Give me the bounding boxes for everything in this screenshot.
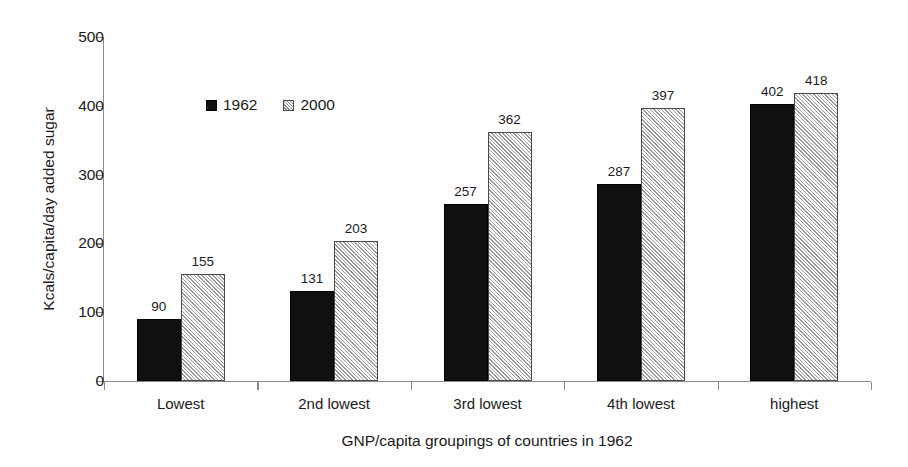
bar-value-label: 131 (282, 271, 342, 286)
bar-value-label: 397 (633, 88, 693, 103)
legend-item-1962: 1962 (206, 96, 257, 114)
x-category-label: Lowest (104, 395, 257, 412)
x-tick-mark (411, 382, 412, 390)
x-category-label: highest (718, 395, 871, 412)
bar (641, 108, 685, 381)
bar (794, 93, 838, 381)
x-axis-line (103, 381, 871, 382)
x-tick-mark (871, 382, 872, 390)
bar (334, 241, 378, 381)
bar (488, 132, 532, 381)
hatched-swatch-icon (283, 100, 294, 111)
bar (181, 274, 225, 381)
x-tick-mark (257, 382, 258, 390)
bar-value-label: 203 (326, 221, 386, 236)
bar (444, 204, 488, 381)
bar (137, 319, 181, 381)
legend-item-2000: 2000 (283, 96, 334, 114)
x-tick-mark (104, 382, 105, 390)
x-category-label: 3rd lowest (411, 395, 564, 412)
legend: 1962 2000 (206, 96, 335, 114)
bar (750, 104, 794, 381)
bar-value-label: 287 (589, 164, 649, 179)
bar-value-label: 362 (480, 112, 540, 127)
bar-value-label: 155 (173, 254, 233, 269)
legend-label-1962: 1962 (223, 96, 257, 114)
bar (597, 184, 641, 381)
x-tick-mark (564, 382, 565, 390)
x-tick-mark (718, 382, 719, 390)
bar-chart: Kcals/capita/day added sugar 01002003004… (0, 0, 908, 467)
x-category-label: 4th lowest (564, 395, 717, 412)
solid-swatch-icon (206, 100, 217, 111)
bar-value-label: 257 (436, 184, 496, 199)
x-axis-title: GNP/capita groupings of countries in 196… (103, 432, 871, 450)
bar (290, 291, 334, 381)
legend-label-2000: 2000 (300, 96, 334, 114)
x-category-label: 2nd lowest (257, 395, 410, 412)
bar-value-label: 418 (786, 73, 846, 88)
bar-value-label: 90 (129, 299, 189, 314)
